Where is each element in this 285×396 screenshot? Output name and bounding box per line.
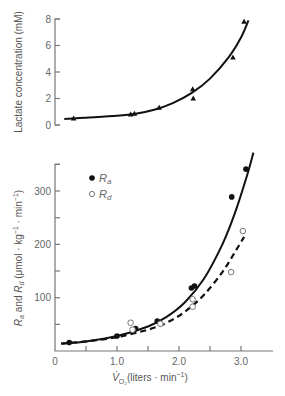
rd-point-icon [240, 228, 246, 234]
x-tick-label: 1.0 [110, 356, 124, 367]
ra-rd-chart: 10020030001.02.03.0 Ra Rd Ra and Rd (μmo… [12, 153, 273, 385]
triangle-marker-icon [190, 96, 196, 101]
x-axis-title: V̇O₂(liters · min−1) [112, 371, 188, 385]
ra-rd-fit-curves [61, 153, 253, 344]
rd-point-icon [158, 321, 164, 327]
legend-ra-marker-icon [89, 175, 95, 181]
rd-point-icon [130, 327, 136, 333]
y-tick-label: 100 [34, 292, 51, 303]
ra-point-icon [114, 333, 120, 339]
y-tick-label: 300 [34, 186, 51, 197]
legend-ra-label: Ra [99, 172, 112, 186]
triangle-marker-icon [190, 86, 196, 91]
top-y-axis-title: Lactate concentration (mM) [13, 11, 24, 133]
y-tick-label: 8 [45, 14, 51, 25]
ra-point-icon [229, 194, 235, 200]
y-tick-label: 200 [34, 239, 51, 250]
ra-point-icon [66, 340, 72, 346]
top-y-axis: 02468 [45, 14, 60, 131]
x-tick-label: 2.0 [172, 356, 186, 367]
legend-rd-marker-icon [89, 191, 94, 196]
y-tick-label: 0 [45, 120, 51, 131]
lactate-chart: 02468 Lactate concentration (mM) [13, 11, 248, 133]
x-tick-label: 3.0 [234, 356, 248, 367]
legend-rd-label: Rd [99, 188, 112, 202]
legend: Ra Rd [89, 172, 112, 202]
rd-point-icon [190, 296, 196, 302]
bottom-axes: 10020030001.02.03.0 [34, 164, 273, 367]
y-tick-label: 2 [45, 93, 51, 104]
lactate-fit-curve [64, 20, 248, 119]
bottom-y-axis-title: Ra and Rd (μmol · kg−1 · min−1) [12, 190, 25, 326]
lactate-points [71, 19, 247, 121]
ra-point-icon [243, 166, 249, 172]
rd-point-icon [128, 320, 134, 326]
triangle-marker-icon [241, 19, 247, 24]
y-tick-label: 6 [45, 40, 51, 51]
y-tick-label: 4 [45, 67, 51, 78]
rd-point-icon [228, 269, 234, 275]
ra-point-icon [192, 283, 198, 289]
rd-point-icon [190, 304, 196, 310]
lactate-turnover-figure: 02468 Lactate concentration (mM) 1002003… [0, 0, 285, 396]
x-tick-label: 0 [52, 356, 58, 367]
